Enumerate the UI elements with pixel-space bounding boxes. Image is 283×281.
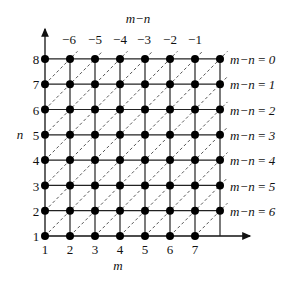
y-tick-labels: 1 2 3 4 5 6 7 8 (33, 52, 40, 244)
lattice-diagram: m−n m n 1 2 3 4 5 6 7 1 2 3 4 5 6 7 8 −6… (0, 0, 283, 281)
lattice-point (91, 207, 99, 215)
lattice-point (216, 207, 224, 215)
lattice-point (41, 131, 49, 139)
top-tick: −1 (188, 32, 202, 47)
lattice-point (116, 106, 124, 114)
lattice-point (141, 55, 149, 63)
diag-label: m−n = 3 (230, 128, 276, 143)
diag-label: m−n = 1 (230, 77, 275, 92)
x-tick: 4 (117, 242, 124, 257)
lattice-point (66, 156, 74, 164)
lattice-point (216, 131, 224, 139)
lattice-point (116, 156, 124, 164)
lattice-point (191, 131, 199, 139)
diag-label: m−n = 2 (230, 103, 276, 118)
diagonal-labels: m−n = 0 m−n = 1 m−n = 2 m−n = 3 m−n = 4 … (230, 52, 276, 219)
x-axis-title: m (113, 258, 122, 273)
y-tick: 3 (33, 179, 40, 194)
diag-label: m−n = 4 (230, 153, 276, 168)
lattice-point (66, 181, 74, 189)
x-tick: 1 (42, 242, 49, 257)
lattice-point (141, 131, 149, 139)
lattice-point (141, 181, 149, 189)
lattice-point (91, 55, 99, 63)
x-tick: 2 (67, 242, 74, 257)
top-tick: −2 (163, 32, 177, 47)
lattice-point (141, 80, 149, 88)
y-axis-title: n (17, 127, 24, 142)
lattice-point (166, 55, 174, 63)
lattice-point (41, 181, 49, 189)
lattice-point (66, 131, 74, 139)
lattice-points (41, 55, 224, 240)
lattice-point (141, 106, 149, 114)
lattice-point (91, 131, 99, 139)
lattice-point (66, 232, 74, 240)
lattice-point (116, 207, 124, 215)
diagonal-line (145, 153, 228, 236)
lattice-point (166, 156, 174, 164)
lattice-point (41, 232, 49, 240)
top-tick: −5 (88, 32, 102, 47)
x-tick: 5 (142, 242, 149, 257)
y-tick: 2 (33, 204, 40, 219)
lattice-point (91, 156, 99, 164)
lattice-point (191, 207, 199, 215)
lattice-point (191, 106, 199, 114)
lattice-point (66, 106, 74, 114)
lattice-point (66, 80, 74, 88)
lattice-point (166, 232, 174, 240)
x-tick: 7 (192, 242, 199, 257)
lattice-point (116, 131, 124, 139)
lattice-point (191, 156, 199, 164)
top-axis-title: m−n (126, 11, 151, 26)
x-tick: 3 (92, 242, 99, 257)
lattice-point (141, 207, 149, 215)
top-tick: −6 (62, 32, 76, 47)
top-tick: −3 (137, 32, 151, 47)
lattice-point (66, 55, 74, 63)
top-tick: −4 (113, 32, 127, 47)
y-tick: 7 (33, 77, 40, 92)
lattice-point (166, 207, 174, 215)
y-tick: 5 (33, 128, 40, 143)
lattice-point (41, 207, 49, 215)
diag-label: m−n = 0 (230, 52, 276, 67)
lattice-point (91, 232, 99, 240)
lattice-point (216, 156, 224, 164)
y-tick: 4 (33, 153, 40, 168)
lattice-point (166, 80, 174, 88)
lattice-point (41, 156, 49, 164)
diag-label: m−n = 6 (230, 204, 276, 219)
lattice-point (141, 156, 149, 164)
lattice-point (216, 106, 224, 114)
x-tick: 6 (167, 242, 174, 257)
lattice-point (166, 131, 174, 139)
lattice-point (116, 55, 124, 63)
top-tick-labels: −6 −5 −4 −3 −2 −1 (62, 32, 202, 47)
lattice-point (66, 207, 74, 215)
y-tick: 1 (33, 229, 40, 244)
lattice-point (141, 232, 149, 240)
lattice-point (191, 181, 199, 189)
lattice-point (216, 181, 224, 189)
lattice-point (191, 55, 199, 63)
lattice-point (41, 55, 49, 63)
lattice-point (166, 106, 174, 114)
lattice-point (41, 106, 49, 114)
lattice-point (116, 232, 124, 240)
lattice-point (191, 80, 199, 88)
diagonal-line (45, 51, 178, 185)
diagonal-line (95, 102, 228, 236)
lattice-point (116, 80, 124, 88)
lattice-point (91, 80, 99, 88)
diag-label: m−n = 5 (230, 179, 276, 194)
lattice-point (91, 181, 99, 189)
y-tick: 6 (33, 103, 40, 118)
lattice-point (216, 55, 224, 63)
lattice-point (216, 80, 224, 88)
lattice-point (91, 106, 99, 114)
lattice-point (166, 181, 174, 189)
x-tick-labels: 1 2 3 4 5 6 7 (42, 242, 199, 257)
lattice-point (116, 181, 124, 189)
